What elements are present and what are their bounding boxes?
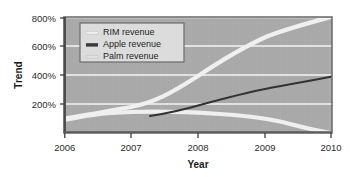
x-tick-label-2009: 2009 bbox=[254, 142, 275, 153]
x-tick-label-2008: 2008 bbox=[187, 142, 208, 153]
legend-label-palm: Palm revenue bbox=[103, 51, 159, 61]
y-axis-title: Trend bbox=[13, 61, 24, 88]
line-chart: 800% 600% 400% 200% 2006 2007 2008 2009 … bbox=[0, 0, 353, 186]
legend-swatch-apple bbox=[86, 43, 98, 46]
y-tick-label-800: 800% bbox=[32, 13, 57, 24]
legend-swatch-rim bbox=[86, 31, 98, 34]
legend-swatch-palm bbox=[86, 55, 98, 58]
x-axis-title: Year bbox=[187, 159, 208, 170]
y-tick-label-200: 200% bbox=[32, 99, 57, 110]
legend-label-apple: Apple revenue bbox=[103, 39, 161, 49]
x-tick-label-2006: 2006 bbox=[54, 142, 75, 153]
chart-container: 800% 600% 400% 200% 2006 2007 2008 2009 … bbox=[0, 0, 353, 186]
x-tick-label-2010: 2010 bbox=[320, 142, 341, 153]
y-tick-label-600: 600% bbox=[32, 41, 57, 52]
legend: RIM revenue Apple revenue Palm revenue bbox=[80, 23, 184, 62]
x-tick-label-2007: 2007 bbox=[120, 142, 141, 153]
legend-label-rim: RIM revenue bbox=[103, 27, 155, 37]
y-tick-label-400: 400% bbox=[32, 70, 57, 81]
